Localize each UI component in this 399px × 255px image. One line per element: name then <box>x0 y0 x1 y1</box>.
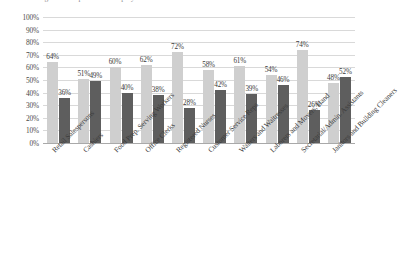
y-axis-tick-label: 80% <box>26 38 39 47</box>
bar-value-label: 51% <box>77 70 90 78</box>
x-axis-category-labels: Retail SalespersonsCashiersFood Prep. Se… <box>0 146 363 255</box>
bar-group: 60%40% <box>110 17 133 143</box>
y-axis-tick-label: 70% <box>26 50 39 59</box>
bar-value-label: 74% <box>296 41 309 49</box>
bar-value-label: 72% <box>171 43 184 51</box>
bar-value-label: 54% <box>265 66 278 74</box>
bar-value-label: 39% <box>245 85 258 93</box>
y-axis-tick-label: 40% <box>26 88 39 97</box>
bar-series-1 <box>47 62 58 143</box>
y-axis-tick-label: 60% <box>26 63 39 72</box>
bar-value-label: 38% <box>152 86 165 94</box>
bar-value-label: 52% <box>339 68 352 76</box>
bar-group: 64%36% <box>47 17 70 143</box>
bar-value-label: 42% <box>214 81 227 89</box>
bar-series-1 <box>110 67 121 143</box>
y-axis-labels: 100%90%80%70%60%50%40%30%20%10%0% <box>0 17 39 143</box>
y-axis-tick-label: 100% <box>22 13 39 22</box>
bar-value-label: 36% <box>58 89 71 97</box>
bar-value-label: 62% <box>140 56 153 64</box>
bar-value-label: 60% <box>109 58 122 66</box>
y-axis-tick-label: 90% <box>26 25 39 34</box>
bar-value-label: 49% <box>89 72 102 80</box>
y-axis-tick-label: 10% <box>26 126 39 135</box>
y-axis-tick-label: 30% <box>26 101 39 110</box>
bar-value-label: 48% <box>327 74 340 82</box>
bar-value-label: 58% <box>202 61 215 69</box>
bar-value-label: 28% <box>183 99 196 107</box>
bar-value-label: 46% <box>277 76 290 84</box>
bar-series-1 <box>203 70 214 143</box>
y-axis-tick-label: 50% <box>26 76 39 85</box>
bar-value-label: 64% <box>46 53 59 61</box>
bar-value-label: 40% <box>121 84 134 92</box>
bar-series-1 <box>234 66 245 143</box>
chart-title-cropped: Percentage of Occupational Group by Gend… <box>0 0 363 3</box>
bar-series-1 <box>141 65 152 143</box>
bar-group: 72%28% <box>172 17 195 143</box>
bar-value-label: 61% <box>233 57 246 65</box>
y-axis-tick-label: 20% <box>26 113 39 122</box>
